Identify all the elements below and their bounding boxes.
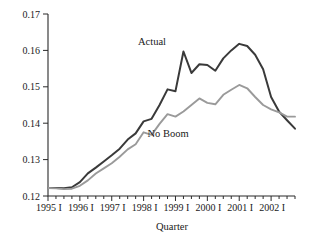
x-tick-label: 1997 I [100,202,126,213]
x-axis-title: Quarter [156,221,189,232]
x-tick-label: 2001 I [227,202,253,213]
y-tick-label: 0.12 [23,191,41,202]
series-label-no-boom: No Boom [147,128,188,139]
x-tick-label: 1996 I [68,202,94,213]
data-series-group [48,44,295,189]
y-tick-label: 0.14 [23,118,41,129]
y-tick-label: 0.13 [23,154,41,165]
x-tick-label: 1998 I [132,202,158,213]
series-label-actual: Actual [138,36,166,47]
x-tick-label: 2002 I [259,202,285,213]
x-tick-label: 2000 I [195,202,221,213]
x-tick-label: 1995 I [36,202,62,213]
y-axis-ticks: 0.120.130.140.150.160.17 [23,9,49,202]
y-tick-label: 0.16 [23,45,41,56]
x-axis-ticks: 1995 I1996 I1997 I1998 I1999 I2000 I2001… [36,196,295,213]
x-tick-label: 1999 I [164,202,190,213]
line-chart: 0.120.130.140.150.160.17 1995 I1996 I199… [0,0,313,240]
chart-figure: 0.120.130.140.150.160.17 1995 I1996 I199… [0,0,313,240]
axis-frame [48,14,295,196]
y-tick-label: 0.15 [23,81,41,92]
y-tick-label: 0.17 [23,9,41,20]
